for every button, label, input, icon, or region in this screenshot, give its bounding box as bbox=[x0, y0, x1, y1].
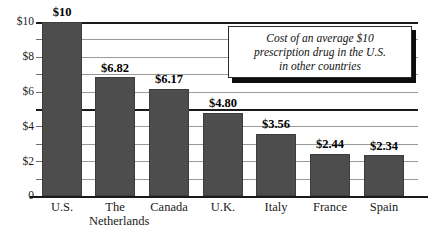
gridline-10 bbox=[42, 22, 418, 24]
annotation-line-1: Cost of an average $10 bbox=[254, 31, 386, 45]
y-axis-label-2: $2 bbox=[0, 156, 34, 168]
category-label-us-line1: U.S. bbox=[51, 200, 73, 214]
annotation-line-3: in other countries bbox=[254, 59, 386, 73]
bar-us bbox=[42, 22, 82, 196]
y-axis-label-4: $4 bbox=[0, 121, 34, 133]
category-label-uk: U.K. bbox=[197, 200, 249, 214]
category-label-us: U.S. bbox=[36, 200, 88, 214]
category-label-netherlands-line1: The bbox=[105, 200, 124, 214]
category-label-uk-line1: U.K. bbox=[211, 200, 235, 214]
annotation-box-shadow bbox=[232, 78, 416, 83]
bar-uk bbox=[203, 113, 243, 197]
bar-canada bbox=[149, 89, 189, 196]
category-label-italy: Italy bbox=[250, 200, 302, 214]
category-label-canada: Canada bbox=[143, 200, 195, 214]
bar-chart: $10 $8 $6 $4 $2 0 bbox=[0, 0, 433, 237]
bar-netherlands bbox=[95, 77, 135, 196]
category-label-spain-line1: Spain bbox=[370, 200, 398, 214]
value-label-us: $10 bbox=[42, 6, 82, 19]
annotation-line-2: prescription drug in the U.S. bbox=[254, 45, 386, 59]
bar-italy bbox=[256, 134, 296, 196]
bar-spain bbox=[364, 155, 404, 196]
category-label-italy-line1: Italy bbox=[265, 200, 288, 214]
value-label-netherlands: $6.82 bbox=[95, 62, 135, 75]
value-label-france: $2.44 bbox=[310, 138, 350, 151]
value-label-spain: $2.34 bbox=[364, 140, 404, 153]
y-axis-label-10: $10 bbox=[0, 16, 34, 28]
annotation-box-shadow-side bbox=[412, 30, 416, 82]
value-label-italy: $3.56 bbox=[256, 118, 296, 131]
y-axis-label-6: $6 bbox=[0, 86, 34, 98]
x-axis-line bbox=[30, 196, 428, 198]
value-label-uk: $4.80 bbox=[203, 97, 243, 110]
annotation-box: Cost of an average $10 prescription drug… bbox=[228, 26, 412, 78]
y-axis-label-0: 0 bbox=[0, 190, 34, 202]
y-axis-label-8: $8 bbox=[0, 51, 34, 63]
category-label-france-line1: France bbox=[313, 200, 347, 214]
category-label-france: France bbox=[304, 200, 356, 214]
value-label-canada: $6.17 bbox=[149, 73, 189, 86]
category-label-netherlands-line2: Netherlands bbox=[89, 214, 141, 228]
category-label-spain: Spain bbox=[358, 200, 410, 214]
annotation-text: Cost of an average $10 prescription drug… bbox=[248, 31, 392, 73]
bar-france bbox=[310, 154, 350, 197]
category-label-netherlands: The Netherlands bbox=[89, 200, 141, 228]
category-label-canada-line1: Canada bbox=[150, 200, 187, 214]
